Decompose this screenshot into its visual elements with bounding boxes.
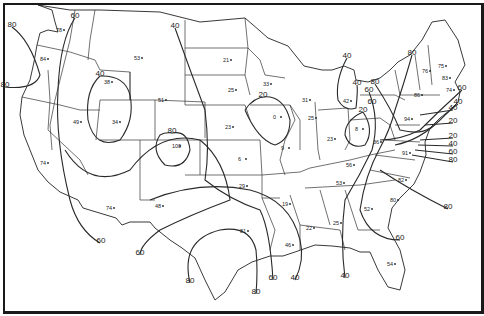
station-value: 74 xyxy=(106,205,112,211)
station-value: 21 xyxy=(223,57,229,63)
isoline-label: 80 xyxy=(252,287,261,296)
isoline-label: 80 xyxy=(449,155,458,164)
station-value: 29 xyxy=(239,183,245,189)
station-dot xyxy=(270,83,272,85)
station-dot xyxy=(111,81,113,83)
station-value: 83 xyxy=(442,75,448,81)
isoline-label: 60 xyxy=(396,233,405,242)
station-dot xyxy=(288,147,290,149)
station-value: 91 xyxy=(402,150,408,156)
station-dot xyxy=(353,164,355,166)
station-value: 22 xyxy=(306,225,312,231)
station-dot xyxy=(246,185,248,187)
isoline-label: 80 xyxy=(8,20,17,29)
isoline-label: 80 xyxy=(444,202,453,211)
station-value: 48 xyxy=(155,203,161,209)
station-dot xyxy=(340,222,342,224)
station-value: 100 xyxy=(172,143,181,149)
station-dot xyxy=(63,29,65,31)
station-dot xyxy=(289,203,291,205)
station-value: 25 xyxy=(333,220,339,226)
isoline-label: 40 xyxy=(341,271,350,280)
station-dot xyxy=(343,182,345,184)
station-dot xyxy=(380,141,382,143)
station-value: 34 xyxy=(112,119,118,125)
isoline-label: 40 xyxy=(291,273,300,282)
station-dot xyxy=(113,207,115,209)
station-dot xyxy=(235,89,237,91)
us-contour-map: 6080804040802040402060608080604040202040… xyxy=(0,0,484,316)
station-dot xyxy=(405,179,407,181)
isoline-label: 60 xyxy=(269,273,278,282)
isoline-label: 80 xyxy=(168,126,177,135)
station-dot xyxy=(362,128,364,130)
station-value: 53 xyxy=(336,180,342,186)
station-value: 74 xyxy=(446,87,452,93)
station-dot xyxy=(119,121,121,123)
station-dot xyxy=(445,65,447,67)
station-dot xyxy=(245,158,247,160)
isoline-label: 40 xyxy=(353,78,362,87)
station-value: 84 xyxy=(40,56,46,62)
station-value: 81 xyxy=(240,228,246,234)
isoline-label: 60 xyxy=(368,97,377,106)
isoline-label: 20 xyxy=(449,116,458,125)
station-dot xyxy=(394,263,396,265)
station-dot xyxy=(411,118,413,120)
station-dot xyxy=(280,116,282,118)
station-value: 25 xyxy=(308,115,314,121)
station-value: 25 xyxy=(228,87,234,93)
station-value: 33 xyxy=(263,81,269,87)
station-dot xyxy=(350,100,352,102)
isoline-label: 60 xyxy=(71,11,80,20)
station-value: 80 xyxy=(390,197,396,203)
station-dot xyxy=(80,121,82,123)
isoline-label: 40 xyxy=(343,51,352,60)
station-dot xyxy=(409,152,411,154)
station-dot xyxy=(449,77,451,79)
station-dot xyxy=(397,199,399,201)
station-value: 82 xyxy=(398,177,404,183)
isoline-label: 20 xyxy=(359,105,368,114)
isolines xyxy=(5,18,462,294)
station-dot xyxy=(371,208,373,210)
station-value: 36 xyxy=(373,139,379,145)
station-dot xyxy=(47,162,49,164)
station-dot xyxy=(247,230,249,232)
station-dot xyxy=(309,99,311,101)
station-value: 94 xyxy=(404,116,410,122)
station-value: 53 xyxy=(134,55,140,61)
us-outline xyxy=(20,5,465,300)
station-value: 23 xyxy=(225,124,231,130)
station-value: 76 xyxy=(422,68,428,74)
station-dot xyxy=(230,59,232,61)
isoline-label: 60 xyxy=(97,236,106,245)
station-value: 86 xyxy=(414,92,420,98)
station-value: 74 xyxy=(40,160,46,166)
station-dot xyxy=(315,117,317,119)
isoline-label: 80 xyxy=(186,276,195,285)
station-dot xyxy=(313,227,315,229)
station-value: 54 xyxy=(387,261,393,267)
station-value: 31 xyxy=(302,97,308,103)
station-dot xyxy=(162,205,164,207)
station-value: 42 xyxy=(343,98,349,104)
station-dot xyxy=(232,126,234,128)
station-value: 9 xyxy=(281,145,284,151)
isoline-label: 60 xyxy=(365,85,374,94)
station-dot xyxy=(292,244,294,246)
isoline-label: 80 xyxy=(371,77,380,86)
station-value: 19 xyxy=(282,201,288,207)
station-dot xyxy=(429,70,431,72)
station-points: 7884533851344974100212533230312542896233… xyxy=(40,27,455,267)
station-value: 52 xyxy=(364,206,370,212)
station-value: 49 xyxy=(73,119,79,125)
station-dot xyxy=(165,99,167,101)
station-value: 23 xyxy=(327,136,333,142)
isoline-label: 40 xyxy=(449,103,458,112)
station-dot xyxy=(453,89,455,91)
station-dot xyxy=(421,94,423,96)
station-value: 51 xyxy=(158,97,164,103)
station-value: 38 xyxy=(104,79,110,85)
station-value: 75 xyxy=(438,63,444,69)
